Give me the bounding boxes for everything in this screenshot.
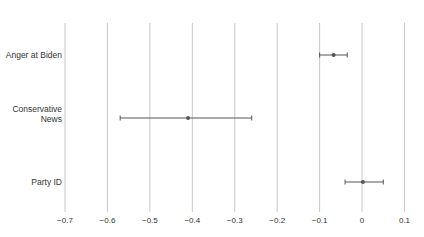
- estimate-with-ci: [120, 116, 252, 121]
- x-tick-label: −0.7: [50, 216, 80, 225]
- estimate-with-ci: [320, 53, 348, 58]
- x-tick-label: −0.2: [262, 216, 292, 225]
- x-tick-label: −0.6: [92, 216, 122, 225]
- x-tick-label: −0.3: [220, 216, 250, 225]
- x-tick-label: −0.1: [305, 216, 335, 225]
- plot-area: [0, 0, 424, 237]
- estimate-with-ci: [345, 180, 383, 185]
- y-category-label: Party ID: [31, 177, 62, 187]
- error-bars: [120, 53, 383, 185]
- y-category-label: Anger at Biden: [6, 50, 62, 60]
- y-category-label: Conservative News: [12, 104, 62, 124]
- x-tick-label: 0.1: [390, 216, 420, 225]
- x-tick-label: 0: [347, 216, 377, 225]
- x-tick-label: −0.4: [177, 216, 207, 225]
- x-tick-label: −0.5: [135, 216, 165, 225]
- coefficient-plot: Anger at BidenConservative NewsParty ID …: [0, 0, 424, 237]
